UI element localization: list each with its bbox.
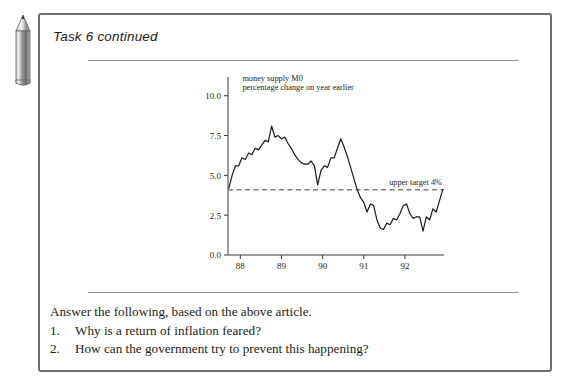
chart-subtitle: percentage change on year earlier <box>242 83 354 92</box>
y-axis-label: 10.0 <box>205 91 221 101</box>
x-axis-label: 91 <box>359 261 368 271</box>
chart-title: money supply M0 <box>242 74 302 83</box>
question-lead: Answer the following, based on the above… <box>50 303 545 322</box>
question-block: Answer the following, based on the above… <box>50 303 545 359</box>
x-axis-label: 90 <box>318 261 328 271</box>
page-title: Task 6 continued <box>53 29 158 44</box>
list-item: 1. Why is a return of inflation feared? <box>50 322 545 341</box>
question-text: Why is a return of inflation feared? <box>75 322 545 341</box>
target-line-label: upper target 4% <box>389 178 442 187</box>
x-axis-label: 92 <box>400 261 409 271</box>
question-text: How can the government try to prevent th… <box>75 340 545 359</box>
question-number: 1. <box>50 322 75 341</box>
y-axis-label: 0.0 <box>210 250 222 260</box>
divider-bottom <box>88 292 518 293</box>
pencil-icon <box>13 14 33 88</box>
list-item: 2. How can the government try to prevent… <box>50 340 545 359</box>
y-axis-label: 5.0 <box>210 171 222 181</box>
y-axis-label: 2.5 <box>210 211 222 221</box>
chart-axes <box>228 77 444 255</box>
task-panel: Task 6 continued money supply M0percenta… <box>38 13 552 372</box>
x-axis-label: 88 <box>236 261 246 271</box>
x-axis-label: 89 <box>277 261 287 271</box>
divider-top <box>88 60 518 61</box>
m0-money-supply-chart: money supply M0percentage change on year… <box>170 65 450 290</box>
question-number: 2. <box>50 340 75 359</box>
y-axis-label: 7.5 <box>210 131 222 141</box>
